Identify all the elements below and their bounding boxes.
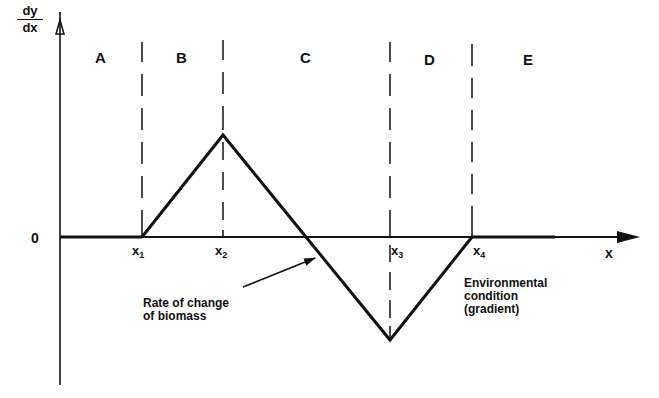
tick-x1-sub: 1 [139,250,144,260]
region-c-label: C [300,50,311,65]
curve-annotation-line2: of biomass [143,310,229,323]
annotation-arrow-icon [243,258,315,287]
tick-x3: x3 [391,244,403,260]
x-axis-label: x [605,246,613,260]
tick-x2-sub: 2 [222,250,227,260]
biomass-rate-diagram: dy dx 0 x A B C D E x1 x2 x3 x4 Rate of … [0,0,659,398]
tick-x3-sub: 3 [398,250,403,260]
region-e-label: E [523,52,533,67]
region-b-label: B [176,50,187,65]
tick-x2: x2 [215,244,227,260]
environment-annotation: Environmental condition (gradient) [464,277,547,316]
tick-x4-sub: 4 [480,250,485,260]
tick-x4: x4 [473,244,485,260]
y-label-denominator: dx [17,20,43,35]
y-label-numerator: dy [17,4,43,20]
zero-label: 0 [31,231,39,245]
y-axis-label: dy dx [17,4,43,35]
region-d-label: D [424,52,435,67]
x-axis-arrow-icon [617,231,640,243]
curve-annotation: Rate of change of biomass [143,297,229,323]
region-boundaries [142,40,472,340]
env-annotation-line3: (gradient) [464,303,547,316]
y-axis [56,12,64,385]
region-a-label: A [95,50,106,65]
tick-x1: x1 [132,244,144,260]
